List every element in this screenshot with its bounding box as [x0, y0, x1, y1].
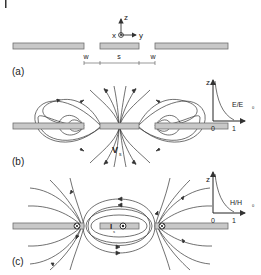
ground-strip-right-b: [155, 123, 228, 129]
voltage-subscript: s: [119, 151, 122, 157]
current-into-page-icon-left: [74, 223, 80, 229]
inset-c-tick-0: 0: [211, 217, 215, 224]
current-out-of-page-icon-centre: [120, 223, 126, 229]
current-subscript: s: [113, 229, 115, 234]
signal-strip-b: [100, 123, 139, 129]
coplanar-waveguide-figure: z x y w s w (a): [0, 0, 261, 275]
dim-s: s: [117, 53, 121, 60]
inset-c-tick-1: 1: [232, 217, 236, 224]
inset-c-y-label: z: [206, 175, 210, 184]
dimension-line: w s w: [82, 53, 156, 65]
crop-mark: [5, 0, 7, 8]
inset-c-x-sub: 0: [252, 203, 255, 208]
panel-label-a: (a): [12, 66, 24, 77]
panel-c-strips: I s (c): [12, 222, 228, 267]
coordinate-axes-icon: z x y: [112, 13, 143, 40]
current-into-page-icon-right: [159, 223, 165, 229]
panel-a: z x y w s w (a): [12, 13, 228, 77]
inset-c-x-label: H/H: [230, 199, 242, 206]
ground-strip-left: [13, 43, 84, 49]
signal-strip: [100, 43, 139, 49]
dim-w-left: w: [82, 53, 89, 60]
voltage-label: V: [112, 145, 118, 155]
axis-label-z: z: [124, 13, 128, 22]
axis-label-y: y: [139, 31, 143, 40]
inset-b-y-label: z: [206, 78, 210, 87]
inset-b-x-label: E/E: [232, 101, 244, 108]
ground-strip-right-c: [155, 223, 228, 229]
panel-label-c: (c): [12, 256, 24, 267]
ground-strip-left-c: [13, 223, 84, 229]
panel-label-b: (b): [12, 156, 24, 167]
inset-b-tick-0: 0: [211, 125, 215, 132]
signal-strip-c: [100, 223, 139, 229]
axis-label-x: x: [112, 31, 116, 40]
dim-w-right: w: [149, 53, 156, 60]
ground-strip-left-b: [13, 123, 84, 129]
inset-b-tick-1: 1: [232, 125, 236, 132]
inset-h-field-profile: z H/H 0 0 1: [206, 172, 255, 224]
current-label: I: [110, 222, 112, 231]
inset-b-x-sub: 0: [252, 105, 255, 110]
ground-strip-right: [155, 43, 228, 49]
